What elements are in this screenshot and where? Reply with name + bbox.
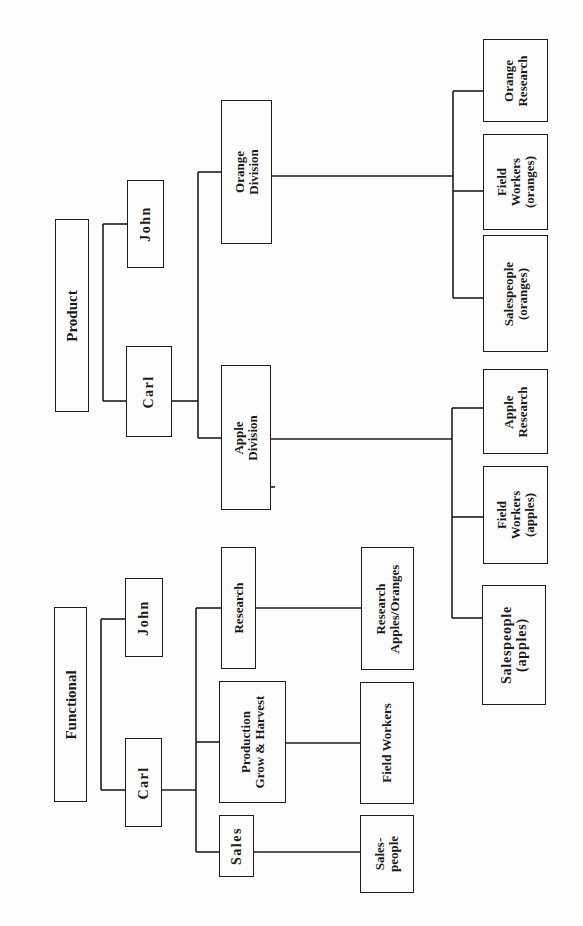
field-workers-oranges-box: Field Workers (oranges) [483, 134, 548, 230]
product-john-label: John [138, 206, 153, 242]
salespeople-label: Sales- people [373, 836, 401, 872]
field-workers-oranges-label: Field Workers (oranges) [494, 156, 536, 208]
functional-carl-label: Carl [136, 766, 151, 799]
field-workers-apples-box: Field Workers (apples) [483, 466, 548, 564]
salespeople-apples-box: Salespeople (apples) [482, 585, 546, 705]
orange-division-box: Orange Division [221, 100, 272, 244]
functional-carl-box: Carl [125, 738, 162, 827]
product-title-box: Product [55, 219, 89, 412]
salespeople-apples-label: Salespeople (apples) [499, 606, 529, 684]
orange-research-box: Orange Research [483, 39, 548, 122]
field-workers-box: Field Workers [360, 682, 414, 804]
salespeople-box: Sales- people [360, 815, 414, 893]
field-workers-apples-label: Field Workers (apples) [494, 491, 536, 539]
research-label: Research [231, 582, 245, 633]
product-john-box: John [127, 180, 164, 268]
orange-research-label: Orange Research [501, 55, 529, 106]
salespeople-oranges-box: Salespeople (oranges) [483, 235, 548, 352]
sales-box: Sales [219, 815, 254, 877]
research-box: Research [221, 547, 256, 669]
functional-john-box: John [125, 578, 163, 657]
functional-title: Functional [62, 670, 78, 739]
field-workers-label: Field Workers [380, 703, 394, 783]
apple-research-label: Apple Research [501, 386, 529, 437]
apple-division-box: Apple Division [221, 365, 271, 510]
orange-division-label: Orange Division [232, 149, 260, 195]
apple-division-label: Apple Division [232, 415, 260, 461]
functional-john-label: John [136, 600, 151, 636]
sales-label: Sales [229, 827, 244, 865]
salespeople-oranges-label: Salespeople (oranges) [501, 261, 529, 325]
research-apples-oranges-box: Research Apples/Oranges [361, 547, 414, 670]
product-carl-label: Carl [141, 375, 156, 408]
product-carl-box: Carl [126, 346, 172, 437]
production-label: Production Grow & Harvest [238, 696, 266, 789]
product-title: Product [64, 290, 80, 341]
apple-research-box: Apple Research [483, 369, 548, 454]
functional-title-box: Functional [54, 607, 87, 802]
research-apples-oranges-label: Research Apples/Oranges [373, 564, 401, 653]
production-box: Production Grow & Harvest [219, 681, 286, 803]
